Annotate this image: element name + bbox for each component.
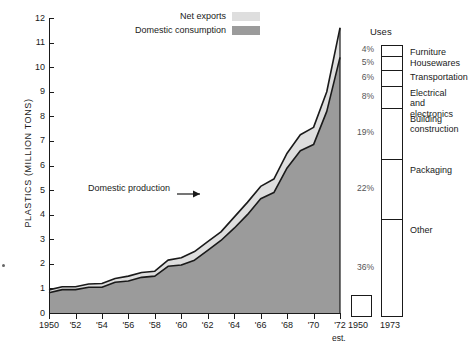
x-tick: [261, 314, 262, 319]
uses-segment-divider: [381, 219, 403, 220]
uses-segment-label: Transportation: [410, 72, 468, 83]
y-tick: [49, 67, 54, 68]
y-tick: [49, 92, 54, 93]
y-tick: [49, 141, 54, 142]
y-tick-label: 12: [19, 14, 45, 23]
x-tick: [208, 314, 209, 319]
y-tick: [49, 190, 54, 191]
uses-segment-percent: 6%: [348, 73, 374, 82]
y-tick-label: 11: [19, 38, 45, 47]
annotation-arrow-icon: [88, 186, 208, 202]
uses-bar-1950: [351, 295, 372, 317]
uses-segment-percent: 4%: [348, 45, 374, 54]
y-tick: [49, 288, 54, 289]
uses-segment-percent: 22%: [348, 184, 374, 193]
legend-item-label: Net exports: [180, 12, 226, 21]
uses-bar-1950-label: 1950: [348, 321, 368, 330]
legend: Net exportsDomestic consumption: [110, 11, 260, 39]
uses-segment-divider: [381, 56, 403, 57]
y-tick: [49, 239, 54, 240]
legend-item-label: Domestic consumption: [135, 26, 226, 35]
legend-item: Domestic consumption: [110, 25, 260, 36]
x-tick: [287, 314, 288, 319]
y-tick-label: 10: [19, 63, 45, 72]
x-axis-estimate-note: est.: [332, 334, 346, 343]
uses-segment-percent: 8%: [348, 92, 374, 101]
x-tick: [49, 314, 50, 319]
y-tick: [49, 116, 54, 117]
y-tick: [49, 18, 54, 19]
x-tick: [155, 314, 156, 319]
x-tick: [102, 314, 103, 319]
uses-segment-percent: 5%: [348, 58, 374, 67]
x-axis-line: [49, 313, 341, 314]
uses-panel-title: Uses: [370, 27, 392, 37]
y-tick-label: 0: [19, 309, 45, 318]
x-tick: [234, 314, 235, 319]
legend-item-swatch: [232, 26, 260, 35]
x-tick: [314, 314, 315, 319]
uses-segment-label: Other: [410, 225, 433, 236]
uses-segment-label: Building construction: [410, 114, 459, 135]
x-tick: [340, 314, 341, 319]
x-tick: [76, 314, 77, 319]
legend-item: Net exports: [110, 11, 260, 22]
x-tick: [128, 314, 129, 319]
uses-segment-label: Packaging: [410, 165, 452, 176]
uses-segment-percent: 36%: [348, 263, 374, 272]
uses-segment-percent: 19%: [348, 128, 374, 137]
uses-segment-divider: [381, 70, 403, 71]
y-tick: [49, 215, 54, 216]
y-tick-label: 2: [19, 259, 45, 268]
legend-item-swatch: [232, 12, 260, 21]
uses-segment-label: Furniture: [410, 47, 446, 58]
y-axis-title: PLASTICS (MILLION TONS): [23, 78, 33, 248]
y-tick: [49, 43, 54, 44]
uses-segment-divider: [381, 108, 403, 109]
uses-segment-divider: [381, 159, 403, 160]
uses-segment-divider: [381, 86, 403, 87]
y-tick: [49, 166, 54, 167]
y-tick-label: 1: [19, 284, 45, 293]
uses-segment-label: Housewares: [410, 58, 460, 69]
x-tick: [181, 314, 182, 319]
margin-dot: [2, 264, 5, 267]
uses-bar-1973-label: 1973: [380, 321, 400, 330]
y-tick: [49, 264, 54, 265]
